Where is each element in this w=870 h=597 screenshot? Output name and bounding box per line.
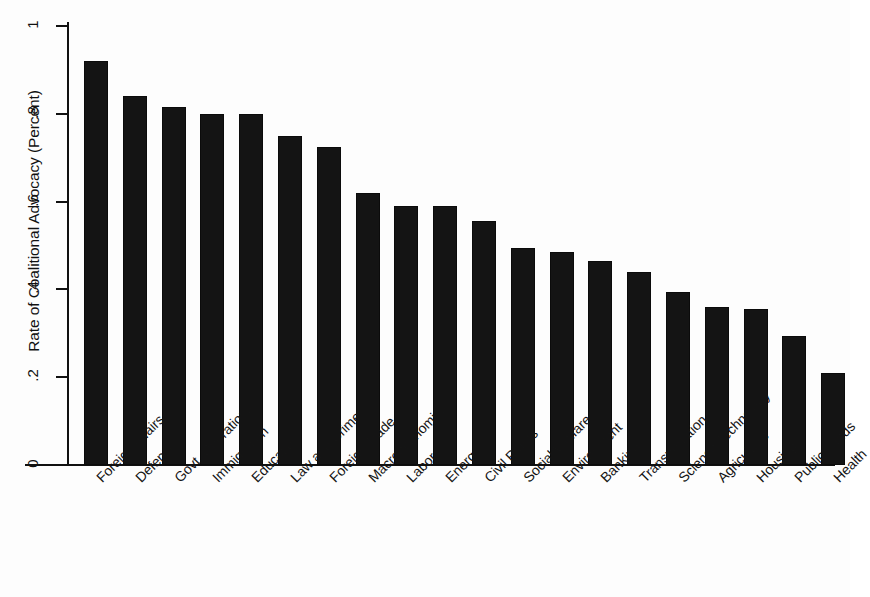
y-axis-tick <box>56 113 68 115</box>
y-axis-tick-label-wrap: .8 <box>8 104 50 124</box>
y-axis-tick-label-wrap: 0 <box>8 455 50 475</box>
y-axis-tick <box>56 288 68 290</box>
y-axis-tick <box>56 464 68 466</box>
bar <box>162 107 186 465</box>
y-axis-tick-label: .2 <box>24 358 41 394</box>
y-axis-tick-label: 0 <box>24 446 41 482</box>
y-axis-tick-label-wrap: .4 <box>8 279 50 299</box>
y-axis-tick <box>56 376 68 378</box>
bar <box>278 136 302 465</box>
bar <box>123 96 147 465</box>
bar <box>627 272 651 465</box>
y-axis-tick-label-wrap: .2 <box>8 367 50 387</box>
y-axis-line <box>67 22 69 466</box>
y-axis-tick-label-wrap: 1 <box>8 16 50 36</box>
bar <box>433 206 457 465</box>
bar <box>200 114 224 465</box>
y-axis-tick <box>56 25 68 27</box>
y-axis-tick <box>56 201 68 203</box>
bar <box>84 61 108 465</box>
y-axis-tick-label: 1 <box>24 7 41 43</box>
bar <box>472 221 496 465</box>
y-axis-tick-label: .6 <box>24 182 41 218</box>
y-axis-tick-label-wrap: .6 <box>8 192 50 212</box>
bar <box>317 147 341 465</box>
y-axis-tick-label: .8 <box>24 94 41 130</box>
y-axis-tick-label: .4 <box>24 270 41 306</box>
